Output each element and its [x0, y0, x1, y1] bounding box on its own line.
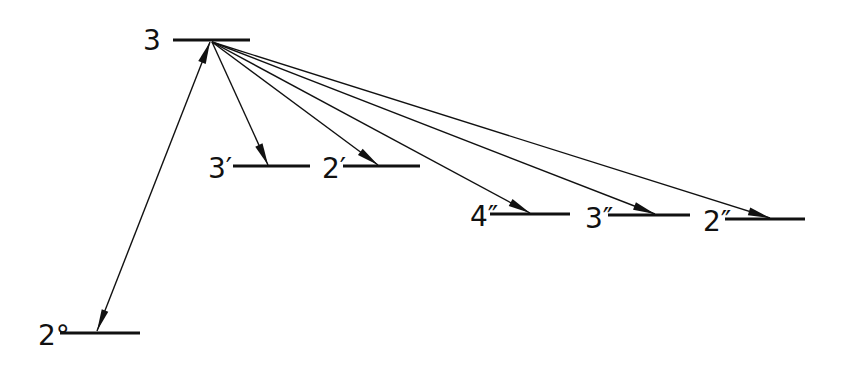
arrowhead-icon [633, 202, 655, 214]
level-label: 2° [38, 319, 70, 352]
level-label: 3″ [585, 202, 613, 235]
arrowhead-icon [97, 309, 108, 331]
level-label: 4″ [470, 200, 498, 233]
level-label: 2″ [703, 205, 731, 238]
level-4pp: 4″ [470, 200, 570, 233]
transition-2o-to-3 [97, 42, 210, 331]
level-label: 2′ [322, 152, 346, 185]
level-label: 3 [143, 24, 161, 57]
transition-line [97, 42, 210, 331]
transition-3-to-3pp [212, 42, 655, 214]
arrowhead-icon [509, 199, 530, 213]
transition-3-to-2p [212, 42, 378, 165]
level-label: 3′ [208, 152, 232, 185]
level-2p: 2′ [322, 152, 420, 185]
level-3p: 3′ [208, 152, 310, 185]
level-3: 3 [143, 24, 250, 57]
arrowhead-icon [198, 42, 210, 64]
transition-line [212, 42, 655, 214]
arrowhead-icon [358, 149, 378, 165]
arrowhead-icon [255, 143, 268, 165]
level-2o: 2° [38, 319, 140, 352]
transition-line [212, 42, 378, 165]
arrowhead-icon [748, 208, 770, 218]
energy-level-diagram: 33′2′4″3″2″2° [0, 0, 846, 368]
